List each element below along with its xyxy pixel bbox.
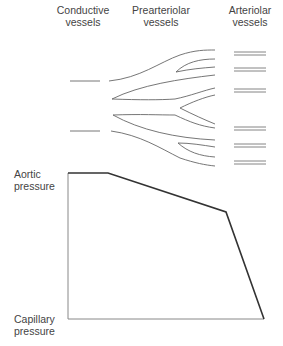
prearteriolar-branch [176,59,215,72]
prearteriolar-branch [111,131,215,166]
prearteriolar-vessels [109,50,215,166]
prearteriolar-branch [112,88,215,100]
prearteriolar-branch [112,75,215,99]
prearteriolar-branch [180,108,215,124]
pressure-profile-chart [68,173,264,319]
prearteriolar-branch [113,115,215,128]
arteriolar-vessels [234,52,266,164]
prearteriolar-branch [178,143,215,147]
pressure-line [68,173,264,319]
diagram-canvas [0,0,283,346]
conductive-vessels [70,81,100,131]
prearteriolar-branch [113,115,215,140]
vascular-pressure-diagram: Conductive vessels Prearteriolar vessels… [0,0,283,346]
prearteriolar-branch [109,50,215,81]
prearteriolar-branch [178,143,215,157]
